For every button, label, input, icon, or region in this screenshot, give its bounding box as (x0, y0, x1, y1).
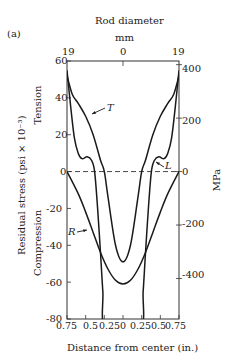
curve-r (67, 172, 179, 284)
plot-area (0, 0, 235, 363)
curve-t (67, 76, 179, 262)
curve-l (67, 70, 179, 333)
arrow-r-head (83, 229, 87, 232)
plot-frame (67, 61, 179, 319)
